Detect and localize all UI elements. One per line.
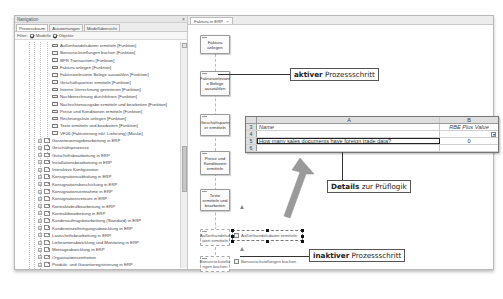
tree-item-function[interactable]: Nachberechnung durchführen [Funktion] xyxy=(15,93,180,100)
tree-item-folder[interactable]: +Konsignationsbeschickung in ERP xyxy=(15,181,180,188)
expand-icon[interactable]: + xyxy=(38,204,42,208)
tree-item-label: Gutschriftsbearbeitung in ERP xyxy=(52,153,110,158)
tree-item-folder[interactable]: +Lieferantenabwicklung und Monitoring in… xyxy=(15,239,180,246)
tree-item-function[interactable]: VF06 (Fakturierung inkl. Lieferung) [Mas… xyxy=(15,130,180,137)
callout-connector xyxy=(240,256,309,257)
expand-icon[interactable]: + xyxy=(38,160,42,164)
tree-item-folder[interactable]: +Kontraktabrufbearbeitung in ERP xyxy=(15,203,180,210)
expand-icon[interactable]: + xyxy=(38,182,42,186)
tree-item-label: Kontraktbearbeitung in ERP xyxy=(52,211,105,216)
tree-item-function[interactable]: Nachrichtenausgabe ermitteln und bearbei… xyxy=(15,100,180,107)
expand-icon[interactable]: + xyxy=(38,255,42,259)
tab-prozessbaum[interactable]: Prozessbaum xyxy=(16,24,48,31)
selection-handle[interactable] xyxy=(301,240,304,243)
tree-item-function[interactable]: Geschäftspartner ermitteln [Funktion] xyxy=(15,78,180,85)
callout-bold: Details xyxy=(331,182,359,191)
step-preise-konditionen[interactable]: Preise und Konditionen ermitteln xyxy=(200,151,230,175)
cell-check-question[interactable]: How many sales documents have foreign tr… xyxy=(257,138,440,144)
step-texte-ermitteln[interactable]: Texte ermitteln und bearbeiten xyxy=(200,189,230,211)
tree-item-function[interactable]: Rechnungsliste anlegen [Funktion] xyxy=(15,115,180,122)
tree-item-function[interactable]: Außenhandelsdaten ermitteln [Funktion] xyxy=(15,42,180,49)
expand-icon[interactable]: + xyxy=(38,153,42,157)
folder-icon xyxy=(44,255,50,259)
filter-label: Filter: xyxy=(17,33,28,38)
step-bonusrueckstellungen[interactable]: Bonusrückstellu ngen buchen xyxy=(200,256,230,272)
selection-handle[interactable] xyxy=(231,235,234,238)
tree-item-function[interactable]: BPR Transactions [Funktion] xyxy=(15,57,180,64)
navigation-scrollbar[interactable] xyxy=(180,42,187,268)
expand-icon[interactable]: + xyxy=(38,139,42,143)
expand-icon[interactable]: + xyxy=(38,175,42,179)
selection-handle[interactable] xyxy=(231,240,234,243)
tree-item-function[interactable]: Interne Verrechnung generieren [Funktion… xyxy=(15,86,180,93)
column-header-a[interactable]: A xyxy=(257,117,440,123)
cell-b4[interactable]: ▾ xyxy=(440,131,498,137)
tree-item-folder[interactable]: +Geschäftsprozesse xyxy=(15,144,180,151)
expand-icon[interactable]: + xyxy=(38,241,42,245)
modelle-checkbox[interactable] xyxy=(30,34,34,38)
step-geschaeftspartner-ermitteln[interactable]: Geschäftspartn er ermitteln xyxy=(200,114,230,136)
selection-handle[interactable] xyxy=(301,229,304,232)
step-faktura-anlegen[interactable]: Faktura anlegen xyxy=(200,35,230,54)
close-icon[interactable]: × xyxy=(226,19,229,24)
selection-handle[interactable] xyxy=(231,229,234,232)
tree-item-folder[interactable]: +Organisationseinheiten xyxy=(15,254,180,261)
step-label: Bonusrückstellu ngen buchen xyxy=(200,259,230,269)
tree-item-folder[interactable]: +Kontraktbearbeitung in ERP xyxy=(15,210,180,217)
expand-icon[interactable]: + xyxy=(38,226,42,230)
tree-item-function[interactable]: Bonusrückstellungen buchen [Funktion] xyxy=(15,49,180,56)
dropdown-arrow-icon[interactable]: ▾ xyxy=(491,132,496,137)
tree-item-folder[interactable]: +Konsignationsentnahme in ERP xyxy=(15,188,180,195)
scrollbar-thumb[interactable] xyxy=(182,146,187,192)
tree-item-folder[interactable]: +Konsignationsabholung in ERP xyxy=(15,173,180,180)
tree-item-folder[interactable]: +Lastschriftsbearbeitung in ERP xyxy=(15,232,180,239)
cell-a6[interactable] xyxy=(257,145,440,151)
tree-item-folder[interactable]: +Konsignationsretoure in ERP xyxy=(15,195,180,202)
tree-item-folder[interactable]: +Interaktive Konfiguration xyxy=(15,166,180,173)
tab-faktura-in-erp[interactable]: Faktura in ERP× xyxy=(190,17,233,24)
tree-item-label: BPR Transactions [Funktion] xyxy=(60,58,114,63)
tree-item-folder[interactable]: +Montageabwicklung in ERP xyxy=(15,246,180,253)
link-bonusrueckstellungen[interactable]: Bonusrückstellungen buchen xyxy=(234,259,296,264)
expand-icon[interactable]: + xyxy=(38,168,42,172)
selection-handle[interactable] xyxy=(301,235,304,238)
tree-item-function[interactable]: Faktura anlegen [Funktion] xyxy=(15,64,180,71)
column-header-b[interactable]: B xyxy=(440,117,498,123)
tree-item-function[interactable]: Texte ermitteln und bearbeiten [Funktion… xyxy=(15,122,180,129)
scroll-up-arrow[interactable] xyxy=(182,43,187,48)
cell-value-header[interactable]: RBE Plus Value xyxy=(440,124,498,130)
sheet-row: 5 How many sales documents have foreign … xyxy=(246,138,498,145)
step-aussenhandelsdaten[interactable]: Außenhandelsd aten ermitteln xyxy=(200,229,230,246)
expand-icon[interactable]: + xyxy=(38,197,42,201)
expand-icon[interactable]: + xyxy=(38,248,42,252)
tree-item-function[interactable]: Preise und Konditionen ermitteln [Funkti… xyxy=(15,108,180,115)
cell-name-header[interactable]: Name xyxy=(257,124,440,130)
tree-item-folder[interactable]: +Produkt- und Garantieregistrierung in E… xyxy=(15,261,180,268)
selection-handle[interactable] xyxy=(266,240,269,243)
tab-auswertungen[interactable]: Auswertungen xyxy=(49,24,82,31)
cell-a4[interactable] xyxy=(257,131,440,137)
expand-icon[interactable]: + xyxy=(38,190,42,194)
tree-item-folder[interactable]: +Kundenauftragsbearbeitung (Standard) in… xyxy=(15,217,180,224)
cell-b6[interactable] xyxy=(440,145,498,151)
expand-icon[interactable]: + xyxy=(38,146,42,150)
tree-item-function[interactable]: Fakturarelevante Belege auswählen [Funkt… xyxy=(15,71,180,78)
objekte-checkbox[interactable] xyxy=(53,34,57,38)
tree-item-folder[interactable]: +Garantieanträgebearbeitung in ERP xyxy=(15,137,180,144)
cell-check-value[interactable]: 0 xyxy=(440,138,498,144)
tree-item-label: Montageabwicklung in ERP xyxy=(52,247,105,252)
expand-icon[interactable]: + xyxy=(38,233,42,237)
close-icon[interactable]: × xyxy=(182,16,185,23)
tree-item-label: Konsignationsentnahme in ERP xyxy=(52,189,113,194)
selection-handle[interactable] xyxy=(266,229,269,232)
link-label: Bonusrückstellungen buchen xyxy=(241,259,296,264)
tree-item-folder[interactable]: +Gutschriftsbearbeitung in ERP xyxy=(15,151,180,158)
objekte-label: Objekte xyxy=(59,33,74,38)
expand-icon[interactable]: + xyxy=(38,219,42,223)
tree-item-folder[interactable]: +Kundeneinzelfertigungsabwicklung in ERP xyxy=(15,224,180,231)
tree-item-folder[interactable]: +Installationsbearbeitung in ERP xyxy=(15,159,180,166)
expand-icon[interactable]: + xyxy=(38,263,42,267)
tab-modelluebersicht[interactable]: Modellübersicht xyxy=(84,24,120,31)
expand-icon[interactable]: + xyxy=(38,211,42,215)
process-tree[interactable]: Außenhandelsdaten ermitteln [Funktion]Bo… xyxy=(15,42,180,268)
